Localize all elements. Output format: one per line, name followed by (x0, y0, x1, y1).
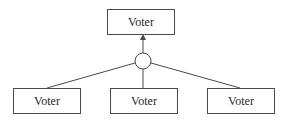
edge-left-to-connector (47, 63, 135, 88)
node-label: Voter (228, 94, 254, 109)
node-label: Voter (34, 94, 60, 109)
node-label: Voter (131, 94, 157, 109)
edge-right-to-connector (151, 63, 240, 88)
node-bottom-middle-voter: Voter (110, 88, 178, 114)
node-label: Voter (128, 15, 154, 30)
node-bottom-right-voter: Voter (207, 88, 275, 114)
voter-diagram: Voter Voter Voter Voter (0, 0, 283, 125)
aggregation-circle (135, 53, 151, 69)
node-top-voter: Voter (107, 9, 175, 35)
node-bottom-left-voter: Voter (13, 88, 81, 114)
